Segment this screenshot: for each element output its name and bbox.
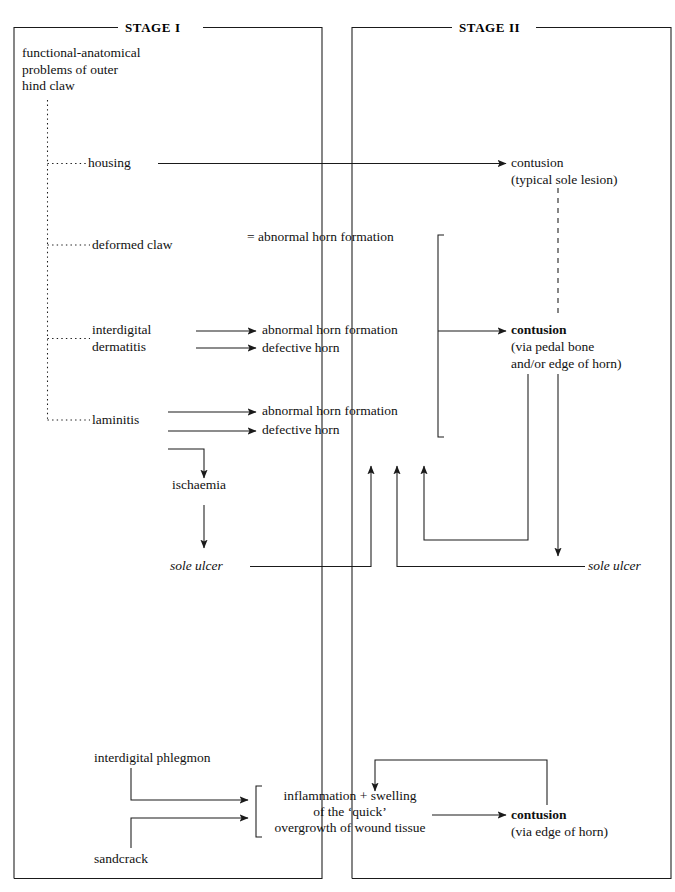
node-inflammation-line-3: overgrowth of wound tissue [260,820,440,837]
node-interdigital: interdigital [92,322,151,339]
node-inflammation-line-2: of the ‘quick’ [264,804,436,821]
node-contusion-typical: contusion [511,155,564,172]
brace-horn-outcomes [438,235,444,437]
stage-2-box-left [352,28,452,879]
arrow-sole-ulcer-left-up [250,466,371,567]
node-inflammation-line-1: inflammation + swelling [264,788,436,805]
node-laminitis: laminitis [92,412,139,429]
arrow-laminitis-to-ischaemia [168,449,204,478]
node-defective-horn-1: defective horn [262,340,340,357]
arrow-phlegmon-to-inflammation [131,768,248,800]
arrow-sandcrack-to-inflammation [131,818,248,848]
node-root-cause: functional-anatomical problems of outer … [22,45,140,95]
node-dermatitis: dermatitis [92,339,146,356]
stage-2-title: STAGE II [454,20,525,36]
node-sole-ulcer-left: sole ulcer [170,558,223,575]
node-contusion-pedal-sub: (via pedal bone and/or edge of horn) [511,339,622,372]
diagram-canvas: STAGE I STAGE II functional-anatomical p… [0,0,675,892]
node-sandcrack: sandcrack [94,851,148,868]
node-contusion-typical-sub: (typical sole lesion) [511,172,617,189]
node-contusion-edge: contusion [511,807,567,824]
node-sole-ulcer-right: sole ulcer [588,558,641,575]
node-contusion-edge-sub: (via edge of horn) [511,824,608,841]
node-interdigital-phlegmon: interdigital phlegmon [94,750,211,767]
node-equals-abnormal-horn: = abnormal horn formation [247,229,394,246]
node-deformed-claw: deformed claw [92,237,173,254]
node-defective-horn-2: defective horn [262,422,340,439]
node-ischaemia: ischaemia [172,477,226,494]
arrow-contusion-pedal-recycle-up [424,374,528,540]
stage-1-title: STAGE I [120,20,186,36]
node-housing: housing [88,155,131,172]
arrow-sole-ulcer-right-up [397,466,585,567]
node-contusion-pedal: contusion [511,322,567,339]
node-abnormal-horn-formation-2: abnormal horn formation [262,403,398,420]
node-abnormal-horn-formation-1: abnormal horn formation [262,322,398,339]
